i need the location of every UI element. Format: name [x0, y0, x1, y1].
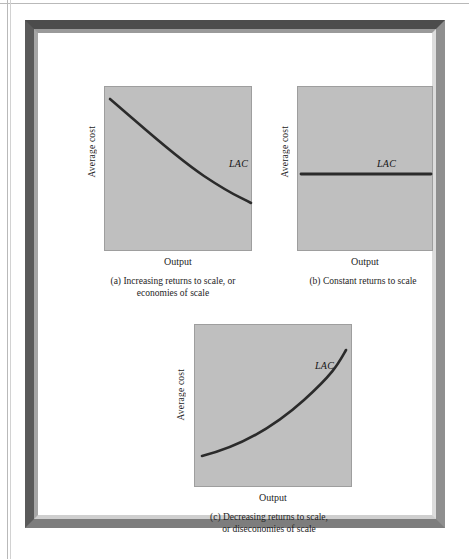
panel-c-x-axis-label: Output: [194, 492, 352, 503]
chart-panel-b: Average cost LAC Output (b) Constant ret…: [272, 86, 462, 304]
panel-c-lac-label: LAC: [315, 360, 334, 371]
figure-frame: Average cost LAC Output (a) Increasing r…: [25, 20, 445, 528]
panel-b-caption-line-1: (b) Constant returns to scale: [268, 276, 458, 288]
panel-a-lac-curve: [110, 99, 251, 203]
panel-a-x-axis-label: Output: [104, 256, 252, 267]
panel-b-x-axis-label: Output: [297, 256, 433, 267]
panel-b-caption: (b) Constant returns to scale: [268, 276, 458, 288]
chart-panel-a: Average cost LAC Output (a) Increasing r…: [79, 86, 279, 304]
panel-c-caption-line-2: or diseconomies of scale: [161, 524, 377, 536]
panel-c-caption-line-1: (c) Decreasing returns to scale,: [161, 512, 377, 524]
panel-b-curve-svg: [297, 86, 433, 251]
panel-c-y-axis-label: Average cost: [176, 369, 186, 421]
panel-a-y-axis-label: Average cost: [87, 126, 97, 178]
panel-a-lac-label: LAC: [229, 158, 248, 169]
page-edge-line-left: [7, 0, 8, 559]
chart-panel-c: Average cost LAC Output (c) Decreasing r…: [169, 324, 369, 539]
panel-a-caption-line-1: (a) Increasing returns to scale, or: [73, 276, 273, 288]
panel-c-plot-area: [194, 324, 352, 487]
panel-a-caption-line-2: economies of scale: [73, 288, 273, 300]
panel-c-curve-svg: [194, 324, 352, 487]
panel-b-y-axis-label: Average cost: [280, 126, 290, 178]
panel-b-lac-label: LAC: [377, 158, 396, 169]
page-edge-line-left-secondary: [10, 0, 11, 559]
page-edge-line-top: [0, 3, 469, 4]
panel-c-caption: (c) Decreasing returns to scale, or dise…: [161, 512, 377, 535]
panel-b-plot-area: [297, 86, 433, 251]
panel-a-caption: (a) Increasing returns to scale, or econ…: [73, 276, 273, 299]
